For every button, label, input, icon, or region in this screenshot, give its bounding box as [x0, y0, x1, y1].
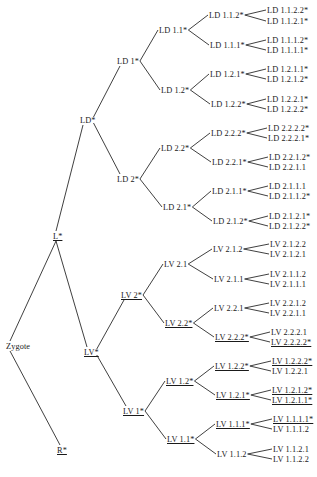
edge-LD2-LD2.2: [140, 148, 160, 179]
tree-node-ld: LD*: [80, 116, 96, 125]
edge-LV2-LV2.2: [143, 295, 164, 323]
tree-node-lv2-2-1-1: LV 2.2.1.1: [270, 309, 306, 318]
edge-LV1.2-LV1.2.1: [194, 381, 215, 395]
edge-LV1.1-LV1.1.2: [195, 439, 216, 454]
tree-node-ld2-1-1-2: LD 2.1.1.2*: [269, 192, 310, 201]
edge-L-LD: [56, 125, 83, 231]
edge-LD1.1-LD1.1.2: [188, 15, 208, 30]
edge-LD1.2.2-LD1.2.2.2: [247, 104, 266, 109]
tree-node-lv1-2-1-1: LV 1.2.1.1*: [272, 396, 312, 405]
edge-LV1.2.1-LV1.2.1.2: [251, 390, 271, 395]
edge-LV2.1.1-LV2.1.1.1: [245, 279, 269, 284]
tree-node-lv2: LV 2*: [121, 291, 142, 300]
edge-LV-LV2: [97, 300, 124, 349]
tree-node-ld1-1-2-2: LD 1.1.2.2*: [267, 6, 308, 15]
edge-LV2.1.1-LV2.1.1.2: [245, 274, 269, 279]
tree-node-ld2-2-1-1: LD 2.2.1.1: [269, 163, 306, 172]
edge-LV2.1-LV2.1.1: [188, 264, 213, 279]
tree-node-ld1-1: LD 1.1*: [159, 26, 187, 35]
tree-node-lv2-2-2-1: LV 2.2.2.1: [271, 328, 307, 337]
edge-LD1.2.2-LD1.2.2.1: [247, 99, 266, 104]
edge-LV1.1.2-LV1.1.2.2: [248, 454, 272, 459]
tree-node-ld2-2-1-2: LD 2.2.1.2*: [269, 153, 310, 162]
tree-node-ld1: LD 1*: [117, 57, 139, 66]
tree-node-ld1-2: LD 1.2*: [161, 86, 189, 95]
tree-node-lv1-2-2-2: LV 1.2.2.2*: [272, 357, 312, 366]
tree-node-lv1-2-2-1: LV 1.2.2.1: [272, 367, 308, 376]
tree-node-ld1-1-2: LD 1.1.2*: [209, 11, 244, 20]
edge-LV2.2-LV2.2.2: [193, 323, 214, 337]
edge-zygote-R: [10, 351, 60, 445]
tree-node-ld2-2-2-2: LD 2.2.2.2*: [268, 124, 309, 133]
tree-node-lv2-1-1: LV 2.1.1: [214, 275, 244, 284]
tree-node-ld1-2-1-2: LD 1.2.1.2*: [267, 75, 308, 84]
tree-node-ld2-1-1: LD 2.1.1*: [212, 187, 247, 196]
tree-node-ld2-1-2: LD 2.1.2*: [213, 217, 248, 226]
edge-LD2.1.1-LD2.1.1.1: [248, 186, 268, 191]
tree-node-ld1-1-1-1: LD 1.1.1.1*: [267, 46, 308, 55]
tree-node-zygote: Zygote: [6, 342, 30, 351]
tree-node-ld1-2-1-1: LD 1.2.1.1*: [267, 65, 308, 74]
edge-LD2-LD2.1: [140, 179, 162, 207]
tree-node-lv2-2-2-2: LV 2.2.2.2*: [271, 338, 311, 347]
tree-node-lv2-1: LV 2.1: [164, 260, 187, 269]
tree-node-lv1-1-2-2: LV 1.1.2.2: [273, 455, 309, 464]
edge-LV1.2.2-LV1.2.2.2: [250, 361, 271, 366]
tree-node-lv1-2: LV 1.2*: [166, 377, 193, 386]
edge-LD1.1.1-LD1.1.1.2: [246, 40, 266, 45]
edge-LV-LV1: [97, 355, 126, 406]
edge-LD-LD2: [94, 123, 120, 174]
tree-node-lv1-2-2: LV 1.2.2*: [215, 362, 249, 371]
edge-LD2.2.2-LD2.2.2.1: [247, 133, 267, 138]
tree-node-ld1-1-2-1: LD 1.1.2.1*: [267, 17, 308, 26]
tree-node-lv2-1-2-2: LV 2.1.2.2: [270, 240, 306, 249]
tree-node-lv2-2-1-2: LV 2.2.1.2: [270, 299, 306, 308]
tree-node-r: R*: [57, 446, 67, 455]
tree-node-ld2-2: LD 2.2*: [161, 144, 189, 153]
tree-node-lv2-1-1-2: LV 2.1.1.2: [270, 270, 306, 279]
tree-node-lv1-1-2-1: LV 1.1.2.1: [273, 445, 309, 454]
edge-LV1.1-LV1.1.1: [195, 424, 215, 439]
edge-LV2.2.2-LV2.2.2.1: [250, 332, 270, 337]
edge-zygote-L: [10, 241, 56, 341]
tree-node-lv1-2-1: LV 1.2.1*: [216, 391, 250, 400]
edge-LV1.2.2-LV1.2.2.1: [250, 366, 271, 371]
tree-node-lv2-1-2-1: LV 2.1.2.1: [270, 250, 306, 259]
edge-LD2.1-LD2.1.2: [192, 207, 212, 221]
edge-LD2.1.2-LD2.1.2.1: [249, 216, 268, 221]
edge-LD-LD1: [94, 66, 120, 117]
edge-LD1.1.2-LD1.1.2.1: [245, 15, 266, 21]
edge-LD1.2-LD1.2.2: [190, 90, 210, 104]
tree-node-ld2-1: LD 2.1*: [163, 203, 191, 212]
edge-LD2.2.2-LD2.2.2.2: [247, 128, 267, 133]
tree-node-lv2-2-2: LV 2.2.2*: [215, 333, 249, 342]
tree-node-lv1-1-1-1: LV 1.1.1.1*: [273, 415, 313, 424]
edge-LV2.2.2-LV2.2.2.2: [250, 337, 270, 342]
edge-LV1-LV1.2: [145, 381, 165, 411]
edge-LD2.2-LD2.2.2: [190, 133, 210, 148]
tree-node-l: L*: [53, 232, 62, 241]
edge-LV2-LV2.1: [143, 264, 163, 295]
edge-LD1.2.1-LD1.2.1.1: [246, 69, 266, 74]
edge-LD2.1.1-LD2.1.1.2: [248, 191, 268, 196]
tree-node-ld1-1-1-2: LD 1.1.1.2*: [267, 36, 308, 45]
tree-node-ld2-2-2: LD 2.2.2*: [211, 129, 246, 138]
tree-node-ld2-1-2-2: LD 2.1.2.2*: [269, 222, 310, 231]
tree-node-lv1-1-1-2: LV 1.1.1.2: [273, 425, 309, 434]
tree-node-ld2-1-2-1: LD 2.1.2.1*: [269, 212, 310, 221]
edge-LD1-LD1.2: [140, 61, 160, 90]
edge-LV2.2-LV2.2.1: [193, 308, 213, 323]
edge-LV2.1.2-LV2.1.2.2: [244, 244, 269, 249]
tree-node-lv2-1-1-1: LV 2.1.1.1: [270, 280, 306, 289]
edge-LD1.1.2-LD1.1.2.2: [245, 10, 266, 15]
edge-LV1.1.1-LV1.1.1.1: [251, 419, 272, 424]
tree-node-ld2-1-1-1: LD 2.1.1.1: [269, 182, 306, 191]
edge-LV2.1-LV2.1.2: [188, 249, 212, 264]
edge-LV2.2.1-LV2.2.1.2: [245, 303, 269, 308]
tree-node-ld1-2-2-2: LD 1.2.2.2*: [267, 105, 308, 114]
edge-LV1.1.1-LV1.1.1.2: [251, 424, 272, 429]
edge-LD2.2.1-LD2.2.1.1: [248, 162, 268, 167]
tree-node-lv1-2-1-2: LV 1.2.1.2*: [272, 386, 312, 395]
tree-node-lv1-1-1: LV 1.1.1*: [216, 420, 250, 429]
tree-node-ld1-2-1: LD 1.2.1*: [210, 70, 245, 79]
